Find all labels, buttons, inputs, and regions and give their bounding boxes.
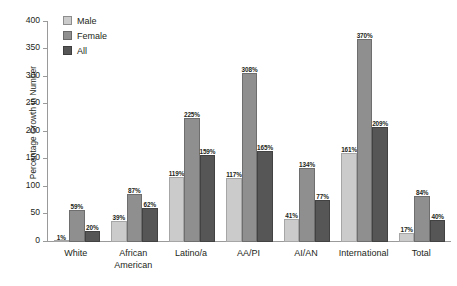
bar-male: 41% bbox=[284, 219, 300, 242]
bar-value-label: 161% bbox=[341, 146, 357, 153]
legend-swatch-all-icon bbox=[63, 46, 72, 55]
legend-label-male: Male bbox=[77, 16, 97, 26]
bar-female: 84% bbox=[414, 196, 430, 242]
bar-value-label: 39% bbox=[113, 214, 126, 221]
y-tick-50: 50 bbox=[43, 213, 47, 214]
bar-female: 225% bbox=[184, 118, 200, 242]
bar-value-label: 59% bbox=[71, 203, 84, 210]
bar-group: 161%370%209% bbox=[341, 21, 388, 242]
y-tick-label: 150 bbox=[26, 152, 40, 162]
bar-all: 165% bbox=[257, 151, 273, 242]
bar-female: 370% bbox=[357, 39, 373, 243]
bar-value-label: 134% bbox=[299, 161, 315, 168]
bar-group: 41%134%77% bbox=[284, 21, 331, 242]
bar-chart: Percentage Growth in Number 050100150200… bbox=[0, 0, 457, 286]
bar-all: 77% bbox=[315, 200, 331, 242]
bar-all: 159% bbox=[200, 155, 216, 242]
y-tick-0: 0 bbox=[43, 241, 47, 242]
y-tick-400: 400 bbox=[43, 21, 47, 22]
y-tick-label: 300 bbox=[26, 70, 40, 80]
legend-item-male: Male bbox=[63, 13, 133, 28]
bar-value-label: 62% bbox=[144, 201, 157, 208]
y-tick-label: 250 bbox=[26, 97, 40, 107]
bar-female: 59% bbox=[69, 210, 85, 242]
bar-all: 62% bbox=[142, 208, 158, 242]
bar-male: 39% bbox=[111, 221, 127, 242]
bar-value-label: 117% bbox=[226, 171, 242, 178]
bar-value-label: 77% bbox=[316, 193, 329, 200]
y-tick-300: 300 bbox=[43, 76, 47, 77]
x-category-label-line: American bbox=[96, 260, 171, 272]
bar-male: 117% bbox=[226, 178, 242, 242]
bar-male: 119% bbox=[169, 177, 185, 242]
x-category-label: Total bbox=[384, 248, 457, 260]
bar-male: 1% bbox=[54, 240, 70, 242]
bar-value-label: 84% bbox=[416, 189, 429, 196]
legend-swatch-male-icon bbox=[63, 16, 72, 25]
bar-value-label: 40% bbox=[431, 213, 444, 220]
bar-value-label: 1% bbox=[57, 234, 66, 241]
x-axis-category-labels: WhiteAfricanAmericanLatino/aAA/PIAI/ANIn… bbox=[47, 248, 451, 282]
bar-group: 17%84%40% bbox=[399, 21, 446, 242]
bar-female: 87% bbox=[127, 194, 143, 242]
y-tick-label: 400 bbox=[26, 15, 40, 25]
x-category-label-line: Total bbox=[384, 248, 457, 260]
bar-all: 20% bbox=[85, 231, 101, 242]
bar-value-label: 165% bbox=[257, 144, 273, 151]
legend-label-female: Female bbox=[77, 31, 107, 41]
legend-item-female: Female bbox=[63, 28, 133, 43]
bar-value-label: 41% bbox=[285, 212, 298, 219]
bar-all: 40% bbox=[430, 220, 446, 242]
y-tick-100: 100 bbox=[43, 186, 47, 187]
bar-female: 134% bbox=[299, 168, 315, 242]
bar-value-label: 308% bbox=[242, 66, 258, 73]
y-tick-350: 350 bbox=[43, 48, 47, 49]
y-tick-150: 150 bbox=[43, 158, 47, 159]
bar-value-label: 20% bbox=[86, 224, 99, 231]
bar-group: 117%308%165% bbox=[226, 21, 273, 242]
bar-male: 17% bbox=[399, 233, 415, 242]
y-tick-250: 250 bbox=[43, 103, 47, 104]
bar-value-label: 87% bbox=[128, 187, 141, 194]
bar-value-label: 17% bbox=[400, 226, 413, 233]
bar-value-label: 209% bbox=[372, 120, 388, 127]
bar-female: 308% bbox=[242, 73, 258, 242]
bar-value-label: 370% bbox=[357, 32, 373, 39]
legend-swatch-female-icon bbox=[63, 31, 72, 40]
y-tick-label: 0 bbox=[35, 235, 40, 245]
bar-value-label: 119% bbox=[169, 170, 185, 177]
bar-value-label: 159% bbox=[199, 148, 215, 155]
bar-value-label: 225% bbox=[184, 111, 200, 118]
legend-item-all: All bbox=[63, 43, 133, 58]
y-tick-label: 50 bbox=[30, 207, 40, 217]
legend-label-all: All bbox=[77, 46, 87, 56]
bar-all: 209% bbox=[372, 127, 388, 242]
y-tick-label: 350 bbox=[26, 42, 40, 52]
bar-group: 119%225%159% bbox=[169, 21, 216, 242]
y-tick-label: 200 bbox=[26, 125, 40, 135]
y-tick-label: 100 bbox=[26, 180, 40, 190]
y-tick-200: 200 bbox=[43, 131, 47, 132]
chart-legend: Male Female All bbox=[63, 13, 133, 58]
bar-male: 161% bbox=[341, 153, 357, 242]
